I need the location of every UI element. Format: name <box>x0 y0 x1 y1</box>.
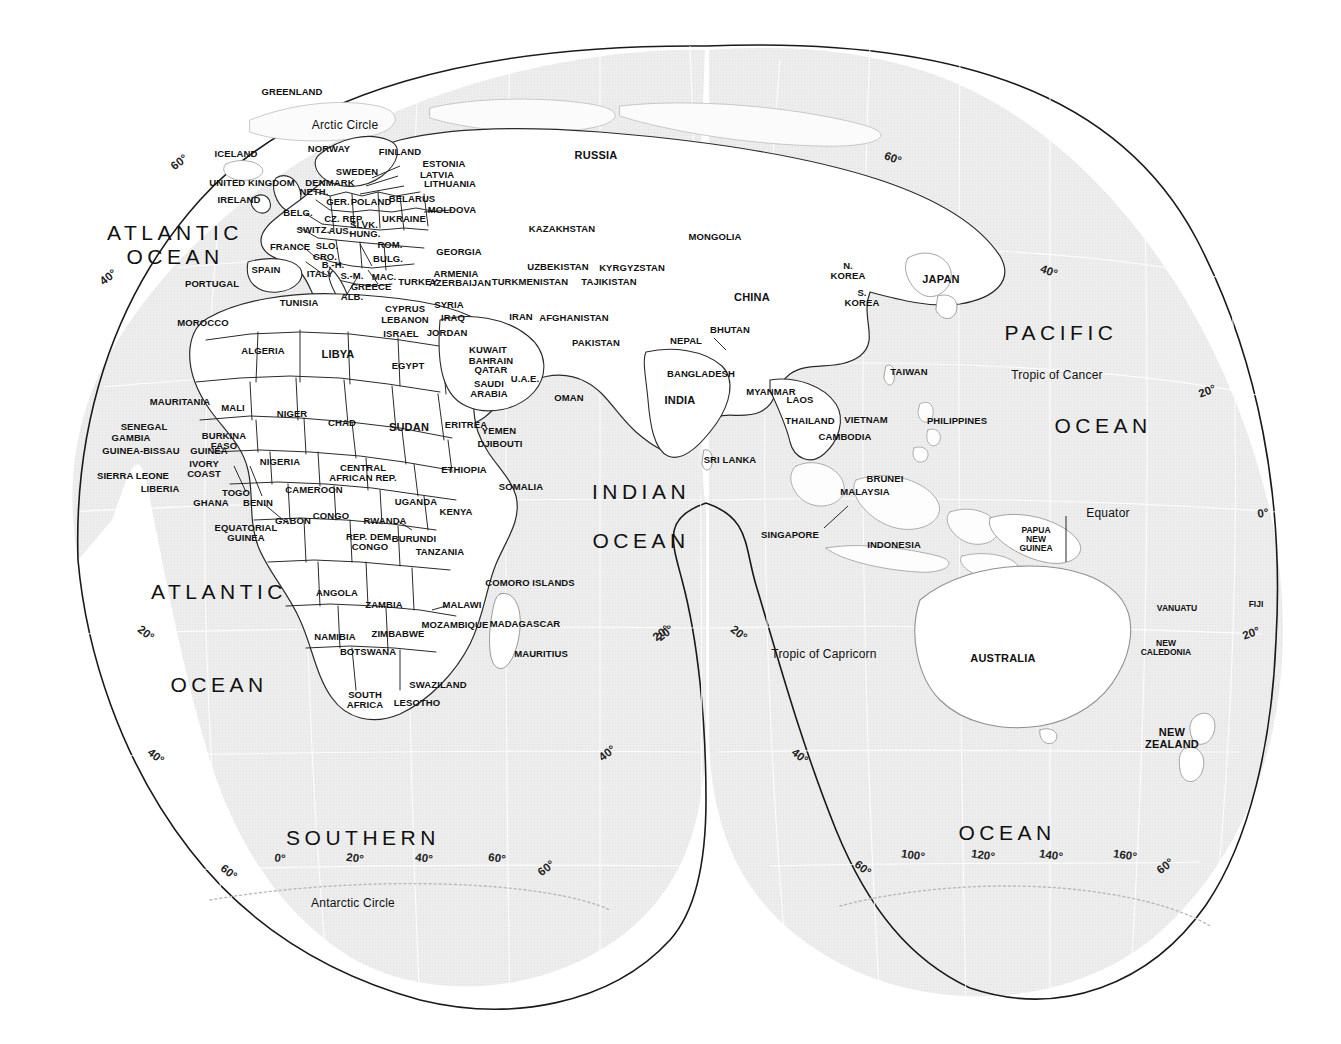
world-map: GREENLANDICELANDNORWAYFINLANDSWEDENESTON… <box>0 0 1341 1044</box>
map-graphics <box>0 0 1341 1044</box>
greenland-shape <box>250 102 395 140</box>
